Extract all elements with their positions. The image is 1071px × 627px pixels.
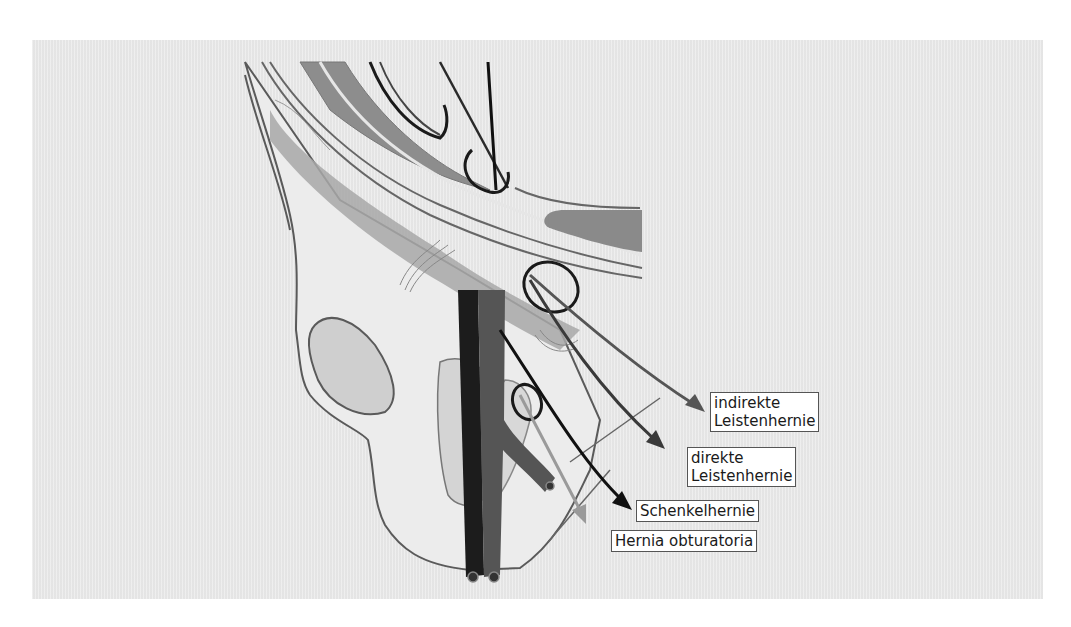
abdominal-muscle (300, 62, 490, 190)
label-line: Schenkelhernie (640, 502, 755, 520)
rectus-muscle (544, 210, 642, 252)
label-line: Hernia obturatoria (615, 532, 753, 550)
label-indirect-inguinal-hernia: indirekte Leistenhernie (710, 392, 819, 432)
label-line: direkte (691, 449, 792, 467)
label-line: indirekte (714, 394, 815, 412)
label-line: Leistenhernie (691, 467, 792, 485)
label-obturator-hernia: Hernia obturatoria (611, 530, 757, 552)
label-femoral-hernia: Schenkelhernie (636, 500, 759, 522)
label-direct-inguinal-hernia: direkte Leistenhernie (687, 447, 796, 487)
hernia-anatomy-illustration (0, 0, 1071, 627)
label-line: Leistenhernie (714, 412, 815, 430)
